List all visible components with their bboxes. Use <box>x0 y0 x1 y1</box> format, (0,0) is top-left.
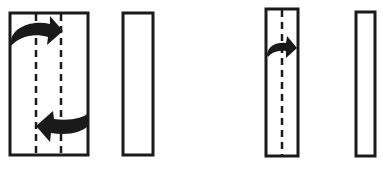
paper-strip-folded-thirds <box>123 13 153 155</box>
step-2-fold-in-half <box>266 9 375 156</box>
paper-strip-folded-half <box>356 12 375 156</box>
step-1-fold-in-thirds <box>10 13 153 155</box>
folding-diagram <box>0 0 383 174</box>
